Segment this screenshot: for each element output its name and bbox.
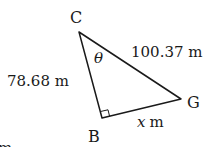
- side-label-cg: 100.37 m: [131, 43, 202, 61]
- cropped-text: m: [0, 139, 12, 147]
- side-variable-x: x: [137, 113, 146, 131]
- vertex-label-b: B: [88, 127, 100, 146]
- angle-label-theta: θ: [94, 49, 103, 67]
- vertex-label-c: C: [70, 8, 82, 27]
- side-unit-m: m: [149, 113, 163, 131]
- side-label-bg: xm: [137, 113, 164, 131]
- right-triangle-diagram: C B G θ 100.37 m 78.68 m xm m: [0, 0, 223, 147]
- side-label-cb: 78.68 m: [7, 72, 69, 90]
- vertex-label-g: G: [187, 93, 200, 112]
